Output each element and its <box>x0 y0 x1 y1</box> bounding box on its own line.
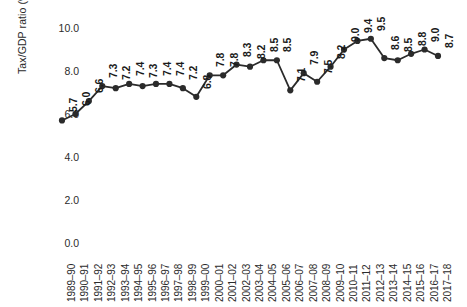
data-value-label: 8.3 <box>241 42 253 56</box>
data-value-label: 7.2 <box>187 66 199 80</box>
data-value-label: 7.5 <box>322 59 334 73</box>
x-tick-label: 2002–03 <box>241 264 252 302</box>
x-tick-label: 1998–99 <box>187 264 198 302</box>
data-value-label: 8.2 <box>335 44 347 58</box>
data-value-label: 7.4 <box>174 62 186 76</box>
data-value-label: 8.6 <box>389 36 401 50</box>
data-value-label: 7.8 <box>228 53 240 67</box>
x-tick-label: 2009–10 <box>335 264 346 302</box>
x-tick-label: 1990–91 <box>79 264 90 302</box>
data-point-marker <box>247 64 253 70</box>
x-tick-label: 2015–16 <box>415 264 426 302</box>
x-tick-label: 1989–90 <box>66 264 77 302</box>
x-tick-label: 1997–98 <box>173 264 184 302</box>
data-value-label: 9.0 <box>429 27 441 41</box>
data-point-marker <box>153 81 159 87</box>
x-tick-label: 1994–95 <box>133 264 144 302</box>
x-tick-label: 1996–97 <box>160 264 171 302</box>
x-tick-label: 2017–18 <box>442 264 453 302</box>
data-value-label: 8.8 <box>416 32 428 46</box>
x-tick-label: 2006–07 <box>294 264 305 302</box>
x-tick-label: 2004–05 <box>267 264 278 302</box>
data-value-label: 7.3 <box>147 64 159 78</box>
x-tick-label: 2008–09 <box>321 264 332 302</box>
data-point-marker <box>435 53 441 59</box>
data-point-marker <box>139 83 145 89</box>
data-value-label: 8.5 <box>268 38 280 52</box>
data-value-label: 7.1 <box>295 68 307 82</box>
data-point-marker <box>314 79 320 85</box>
data-value-label: 8.2 <box>255 44 267 58</box>
data-point-marker <box>193 94 199 100</box>
data-value-label: 7.4 <box>134 62 146 76</box>
data-value-label: 7.8 <box>214 53 226 67</box>
data-point-marker <box>395 57 401 63</box>
data-value-label: 7.2 <box>120 66 132 80</box>
x-tick-label: 1991–92 <box>93 264 104 302</box>
x-tick-label: 2003–04 <box>254 264 265 302</box>
x-tick-label: 2010–11 <box>348 265 359 303</box>
x-tick-label: 2000–01 <box>214 264 225 302</box>
x-tick-label: 1993–94 <box>120 264 131 302</box>
data-value-label: 8.7 <box>443 34 455 48</box>
x-tick-label: 2001–02 <box>227 264 238 302</box>
data-value-label: 5.7 <box>67 98 79 112</box>
data-point-marker <box>180 85 186 91</box>
data-point-marker <box>166 81 172 87</box>
x-tick-label: 1999–00 <box>200 264 211 302</box>
data-point-marker <box>113 85 119 91</box>
data-point-marker <box>220 72 226 78</box>
data-value-label: 9.5 <box>375 16 387 30</box>
x-tick-label: 2007–08 <box>308 264 319 302</box>
x-tick-label: 1995–96 <box>147 264 158 302</box>
data-point-marker <box>126 81 132 87</box>
data-point-marker <box>59 117 65 123</box>
data-value-label: 7.3 <box>107 64 119 78</box>
data-point-marker <box>421 46 427 52</box>
x-tick-label: 2011–12 <box>361 265 372 303</box>
x-tick-label: 2014–15 <box>402 264 413 302</box>
x-tick-label: 2012–13 <box>375 264 386 302</box>
data-value-label: 8.5 <box>402 38 414 52</box>
data-point-marker <box>381 55 387 61</box>
data-point-marker <box>368 36 374 42</box>
data-value-label: 7.4 <box>161 62 173 76</box>
data-point-marker <box>274 57 280 63</box>
chart-page: Tax/GDP ratio (%) 10.08.06.04.02.00.0 5.… <box>0 0 467 307</box>
x-tick-label: 2016–17 <box>429 264 440 302</box>
data-value-label: 9.4 <box>362 19 374 33</box>
data-value-label: 6.0 <box>80 92 92 106</box>
x-tick-label: 2013–14 <box>388 264 399 302</box>
x-tick-label: 2005–06 <box>281 264 292 302</box>
x-tick-label: 1992–93 <box>106 264 117 302</box>
data-value-label: 6.8 <box>201 75 213 89</box>
data-value-label: 7.9 <box>308 51 320 65</box>
data-value-label: 8.5 <box>281 38 293 52</box>
data-point-marker <box>287 87 293 93</box>
data-value-label: 6.6 <box>93 79 105 93</box>
data-value-label: 9.0 <box>349 27 361 41</box>
